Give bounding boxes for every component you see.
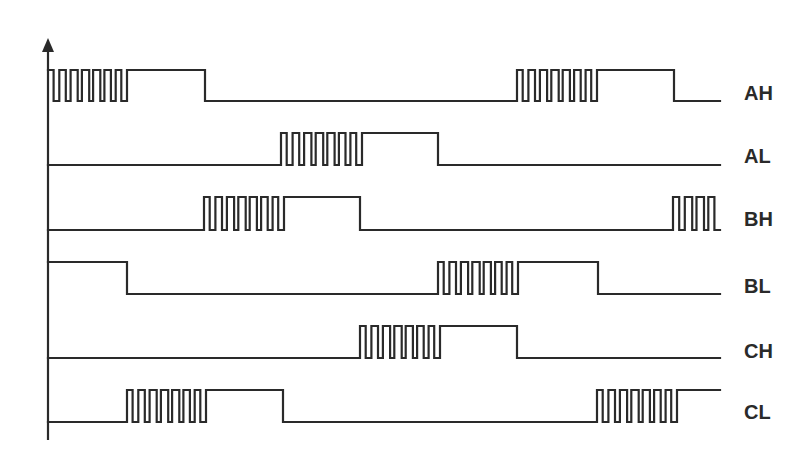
signal-label-al: AL [744, 146, 771, 166]
signal-label-ah: AH [744, 83, 773, 103]
signal-label-ch: CH [744, 341, 773, 361]
timing-diagram [0, 0, 812, 454]
signal-waveforms [48, 70, 720, 422]
waveform-al [48, 133, 720, 165]
waveform-bl [48, 262, 720, 294]
axis-arrow-icon [42, 38, 54, 52]
waveform-bh [48, 197, 720, 230]
signal-label-bl: BL [744, 276, 771, 296]
signal-label-cl: CL [744, 402, 771, 422]
signal-label-bh: BH [744, 209, 773, 229]
waveform-cl [48, 390, 720, 422]
waveform-ch [48, 326, 720, 358]
time-axis [42, 38, 54, 440]
waveform-ah [48, 70, 720, 101]
